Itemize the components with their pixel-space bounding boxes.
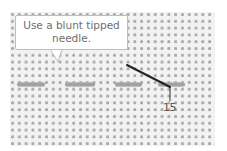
needle-icon xyxy=(127,65,170,87)
step-label: 15 xyxy=(163,101,176,114)
callout-bubble: Use a blunt tipped needle. xyxy=(15,15,128,50)
callout-tail xyxy=(50,49,62,62)
callout-line-2: needle. xyxy=(16,32,127,45)
callout-line-1: Use a blunt tipped xyxy=(16,19,127,32)
